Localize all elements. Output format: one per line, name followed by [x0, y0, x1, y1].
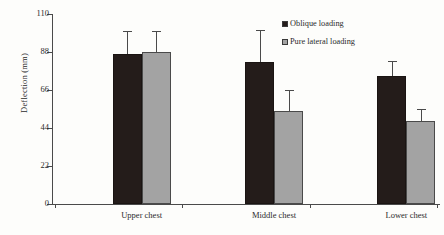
x-tick-mark: [310, 204, 311, 208]
error-bar-line: [421, 109, 422, 121]
legend-item-pure-lateral-loading: Pure lateral loading: [282, 38, 355, 47]
x-axis-category-label: Middle chest: [229, 210, 319, 220]
y-axis-title: Deflection (mm): [19, 23, 29, 143]
error-bar-cap: [417, 109, 426, 110]
bar: [406, 121, 435, 204]
plot-area: 022446688110 Upper chestMiddle chestLowe…: [52, 14, 440, 205]
error-bar-cap: [123, 31, 132, 32]
gray-square-icon: [282, 39, 288, 45]
y-tick-label: 110: [37, 8, 49, 18]
bar: [113, 54, 142, 204]
error-bar-line: [289, 90, 290, 111]
y-tick-label: 88: [41, 46, 50, 56]
bar: [274, 111, 303, 204]
x-tick-mark: [55, 204, 56, 208]
error-bar-line: [156, 31, 157, 52]
error-bar-line: [127, 31, 128, 53]
bar: [142, 52, 171, 204]
y-tick-label: 22: [41, 160, 50, 170]
legend-item-label: Pure lateral loading: [290, 38, 355, 47]
error-bar-cap: [152, 31, 161, 32]
black-square-icon: [282, 21, 288, 27]
error-bar-cap: [256, 30, 265, 31]
legend-item-oblique-loading: Oblique loading: [282, 20, 355, 29]
x-axis-category-label: Lower chest: [361, 210, 444, 220]
error-bar-cap: [388, 61, 397, 62]
bar: [245, 62, 274, 204]
y-tick-label: 0: [45, 198, 49, 208]
y-tick-label: 66: [41, 84, 50, 94]
legend-item-label: Oblique loading: [290, 20, 344, 29]
x-axis-line: [52, 204, 440, 205]
x-tick-mark: [182, 204, 183, 208]
chart-legend: Oblique loading Pure lateral loading: [282, 20, 355, 55]
bar-chart: Deflection (mm) 022446688110 Upper chest…: [0, 0, 444, 235]
y-axis-line: [52, 14, 53, 205]
bar: [377, 76, 406, 204]
error-bar-line: [260, 30, 261, 63]
y-tick-label: 44: [41, 122, 50, 132]
x-axis-category-label: Upper chest: [97, 210, 187, 220]
error-bar-line: [392, 61, 393, 77]
x-tick-mark: [437, 204, 438, 208]
error-bar-cap: [285, 90, 294, 91]
